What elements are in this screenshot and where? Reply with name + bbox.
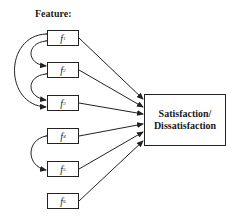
feature-title: Feature: (35, 8, 71, 19)
feature-box-f4: f4 (47, 128, 79, 144)
arc-f1-f3 (15, 34, 47, 107)
arc-f4-f5 (31, 136, 46, 170)
feature-box-f6: f6 (47, 193, 79, 209)
feature-box-f5: f5 (47, 161, 79, 177)
target-label-line2: Dissatisfaction (154, 120, 216, 132)
edge-f1-target (79, 38, 143, 99)
target-box-satisfaction: Satisfaction/ Dissatisfaction (144, 94, 226, 146)
feature-edges (79, 38, 143, 201)
feature-box-f1: f1 (47, 30, 79, 46)
correlation-arcs (15, 34, 47, 170)
edge-f4-target (79, 124, 143, 136)
feature-box-f2: f2 (47, 62, 79, 78)
target-label-line1: Satisfaction/ (159, 108, 212, 120)
edge-f3-target (79, 103, 143, 114)
arc-f2-f3 (31, 74, 46, 100)
feature-box-f3: f3 (47, 95, 79, 111)
edge-f2-target (79, 70, 143, 107)
arc-f1-f2 (31, 41, 46, 66)
